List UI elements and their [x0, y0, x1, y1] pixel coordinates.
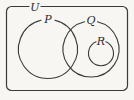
label-set-p: P — [43, 13, 52, 26]
label-set-q: Q — [86, 14, 95, 27]
circle-p-outline — [18, 20, 77, 78]
label-universe-u: U — [30, 1, 40, 14]
venn-diagram-figure: U P Q R — [0, 0, 134, 100]
label-set-r: R — [96, 35, 105, 48]
universe-rectangle-outline — [7, 7, 128, 91]
venn-diagram-canvas: U P Q R — [0, 0, 134, 100]
